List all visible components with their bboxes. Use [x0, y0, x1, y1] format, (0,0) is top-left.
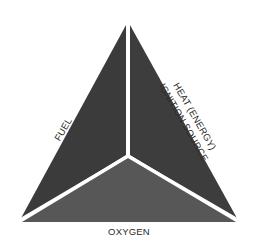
fire-triangle-diagram: FUEL HEAT (ENERGY) IGNITION SOURCE OXYGE… [0, 0, 258, 245]
oxygen-label: OXYGEN [108, 226, 150, 237]
